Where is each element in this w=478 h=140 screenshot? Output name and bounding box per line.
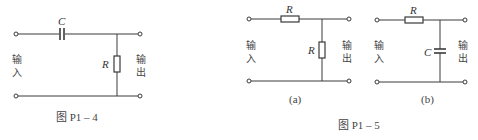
- capacitor-shunt-label: C: [424, 46, 432, 58]
- terminal-out-bottom: [138, 94, 142, 98]
- terminal-in-top: [247, 17, 251, 21]
- input-label-1: 输: [374, 39, 384, 51]
- resistor-shunt: [114, 56, 120, 72]
- resistor-series: [405, 17, 423, 23]
- output-label-2: 出: [136, 66, 146, 78]
- terminal-in-bottom: [14, 94, 18, 98]
- subfigure-tag: (a): [289, 93, 302, 106]
- terminal-in-top: [14, 32, 18, 36]
- figure-caption-p1-5: 图 P1 – 5: [338, 119, 380, 131]
- terminal-out-top: [138, 32, 142, 36]
- output-label-1: 输: [342, 39, 352, 51]
- subfigure-tag: (b): [421, 93, 434, 106]
- resistor-label: R: [101, 58, 109, 70]
- capacitor-label: C: [58, 15, 66, 27]
- output-label-2: 出: [342, 52, 352, 64]
- circuit-diagrams: C R 输 入 输 出 图 P1 – 4 R R 输 入 输 出 (a): [0, 0, 478, 140]
- resistor-shunt-label: R: [307, 44, 315, 56]
- resistor-shunt: [319, 42, 325, 58]
- terminal-out-top: [463, 18, 467, 22]
- figure-p1-4: C R 输 入 输 出 图 P1 – 4: [12, 15, 146, 123]
- terminal-out-top: [347, 17, 351, 21]
- output-label-1: 输: [458, 39, 468, 51]
- terminal-out-bottom: [463, 80, 467, 84]
- terminal-in-bottom: [375, 80, 379, 84]
- terminal-in-top: [375, 18, 379, 22]
- input-label-2: 入: [246, 53, 256, 64]
- figure-p1-5b: R C 输 入 输 出 (b): [374, 4, 468, 106]
- resistor-series: [281, 16, 299, 22]
- output-label-1: 输: [136, 53, 146, 65]
- input-label-1: 输: [12, 53, 22, 65]
- figure-caption: 图 P1 – 4: [56, 111, 98, 123]
- resistor-series-label: R: [285, 3, 293, 15]
- terminal-in-bottom: [247, 79, 251, 83]
- terminal-out-bottom: [347, 79, 351, 83]
- resistor-series-label: R: [409, 4, 417, 16]
- output-label-2: 出: [458, 52, 468, 64]
- input-label-2: 入: [374, 53, 384, 64]
- figure-p1-5a: R R 输 入 输 出 (a): [246, 3, 352, 106]
- input-label-1: 输: [246, 39, 256, 51]
- input-label-2: 入: [12, 67, 22, 78]
